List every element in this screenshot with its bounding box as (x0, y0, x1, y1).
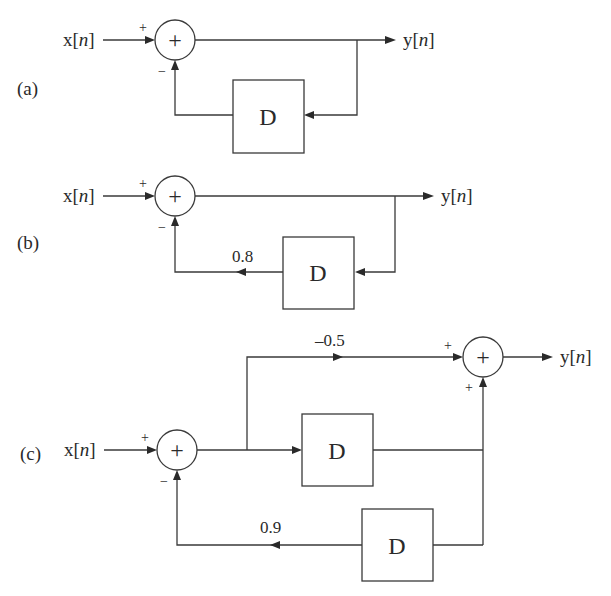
diagram-a: (a) x[n] + + y[n] D − (17, 20, 435, 153)
feedback-gain-c: 0.9 (260, 518, 281, 537)
arrow-icon (171, 216, 179, 226)
arrow-icon (423, 192, 434, 200)
adder-symbol: + (476, 344, 490, 370)
adder1-c: + (157, 430, 197, 470)
delay-label: D (309, 260, 326, 286)
diagram-c: (c) x[n] + + –0.5 + + y[n] D (20, 331, 592, 581)
feedback-line-b (175, 224, 283, 272)
arrow-icon (304, 111, 314, 119)
feedforward-gain-c: –0.5 (314, 331, 345, 350)
arrow-icon (145, 192, 155, 200)
diagram-label-a: (a) (17, 78, 38, 100)
delay-label: D (328, 438, 345, 464)
arrow-icon (173, 470, 181, 480)
feedback-tap-a (312, 40, 357, 115)
delay-block-a: D (233, 80, 304, 153)
diagram-b: (b) x[n] + + y[n] D 0.8 − (17, 176, 473, 309)
arrow-icon (333, 353, 343, 361)
plus-sign-b: + (139, 176, 147, 191)
arrow-icon (292, 446, 302, 454)
arrow-icon (479, 377, 487, 387)
input-label-b: x[n] (63, 185, 95, 206)
adder2-c: + (463, 337, 503, 377)
arrow-icon (542, 353, 553, 361)
arrow-icon (355, 268, 365, 276)
delay-label: D (259, 104, 276, 130)
delay-label: D (388, 533, 405, 559)
adder-symbol: + (168, 183, 182, 209)
output-label-b: y[n] (441, 185, 473, 206)
arrow-icon (236, 268, 246, 276)
plus-sign-c: + (141, 430, 149, 445)
adder-a: + (155, 20, 195, 60)
plus-sign-top-c: + (444, 338, 452, 353)
arrow-icon (385, 36, 396, 44)
output-label-a: y[n] (403, 29, 435, 50)
plus-sign-a: + (139, 20, 147, 35)
arrow-icon (145, 36, 155, 44)
input-label-a: x[n] (63, 29, 95, 50)
input-label-c: x[n] (64, 439, 96, 460)
adder-symbol: + (168, 27, 182, 53)
minus-sign-b: − (158, 220, 166, 235)
arrow-icon (453, 353, 463, 361)
arrow-icon (147, 446, 157, 454)
feedback-tap-b (363, 196, 395, 272)
minus-sign-a: − (158, 64, 166, 79)
block-diagrams: (a) x[n] + + y[n] D − (b) x[n] + + (0, 0, 611, 596)
delay-block-1-c: D (302, 414, 373, 486)
output-label-c: y[n] (560, 346, 592, 367)
diagram-label-b: (b) (17, 232, 39, 254)
feedback-line-a (175, 68, 233, 115)
arrow-icon (171, 60, 179, 70)
delay-block-b: D (283, 237, 354, 309)
feedback-gain-b: 0.8 (232, 247, 253, 266)
minus-sign-c: − (160, 474, 168, 489)
delay-block-2-c: D (362, 509, 433, 581)
diagram-label-c: (c) (20, 443, 41, 465)
adder-b: + (155, 176, 195, 216)
arrow-icon (270, 541, 280, 549)
adder-symbol: + (170, 437, 184, 463)
plus-sign-bottom-c: + (465, 380, 473, 395)
